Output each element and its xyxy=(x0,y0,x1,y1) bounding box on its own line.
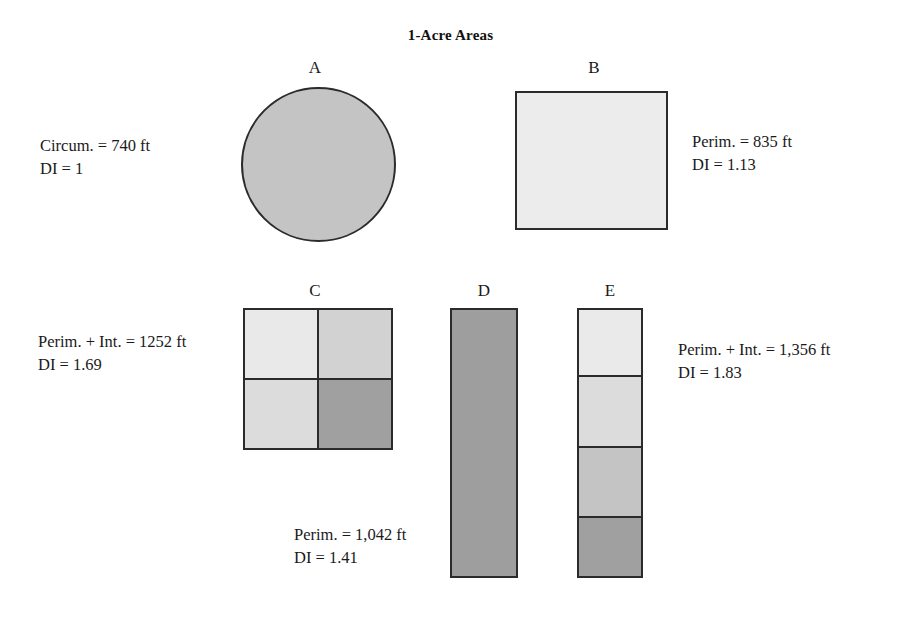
annotation-c-line1: Perim. + Int. = 1252 ft xyxy=(38,332,186,351)
shape-label-b: B xyxy=(574,58,614,78)
stack-e-cell-3 xyxy=(579,448,641,516)
annotation-e: Perim. + Int. = 1,356 ft DI = 1.83 xyxy=(678,338,830,384)
shape-circle-a xyxy=(241,87,396,242)
grid-c-cell-top-left xyxy=(245,310,317,378)
annotation-c-line2: DI = 1.69 xyxy=(38,353,186,376)
stack-e-cell-4 xyxy=(579,518,641,576)
annotation-b-line1: Perim. = 835 ft xyxy=(692,132,792,151)
stack-e-cell-2 xyxy=(579,377,641,446)
annotation-a: Circum. = 740 ft DI = 1 xyxy=(40,134,150,180)
shape-label-e: E xyxy=(590,281,630,301)
shape-label-c: C xyxy=(295,281,335,301)
shape-label-d: D xyxy=(464,281,504,301)
shape-bar-d xyxy=(450,308,518,578)
annotation-a-line1: Circum. = 740 ft xyxy=(40,136,150,155)
shape-grid-c xyxy=(243,308,393,450)
annotation-a-line2: DI = 1 xyxy=(40,157,150,180)
shape-stack-e xyxy=(577,308,643,578)
annotation-e-line1: Perim. + Int. = 1,356 ft xyxy=(678,340,830,359)
annotation-d-line2: DI = 1.41 xyxy=(294,546,406,569)
annotation-c: Perim. + Int. = 1252 ft DI = 1.69 xyxy=(38,330,186,376)
stack-e-cell-1 xyxy=(579,310,641,375)
grid-c-cell-bottom-right xyxy=(319,380,391,448)
annotation-d-line1: Perim. = 1,042 ft xyxy=(294,525,406,544)
shape-label-a: A xyxy=(295,58,335,78)
annotation-e-line2: DI = 1.83 xyxy=(678,361,830,384)
annotation-b: Perim. = 835 ft DI = 1.13 xyxy=(692,130,792,176)
annotation-b-line2: DI = 1.13 xyxy=(692,153,792,176)
grid-c-cell-bottom-left xyxy=(245,380,317,448)
shape-square-b xyxy=(515,91,668,230)
annotation-d: Perim. = 1,042 ft DI = 1.41 xyxy=(294,523,406,569)
page-title: 1-Acre Areas xyxy=(0,27,901,44)
grid-c-cell-top-right xyxy=(319,310,391,378)
diagram-canvas: 1-Acre Areas A Circum. = 740 ft DI = 1 B… xyxy=(0,0,901,624)
